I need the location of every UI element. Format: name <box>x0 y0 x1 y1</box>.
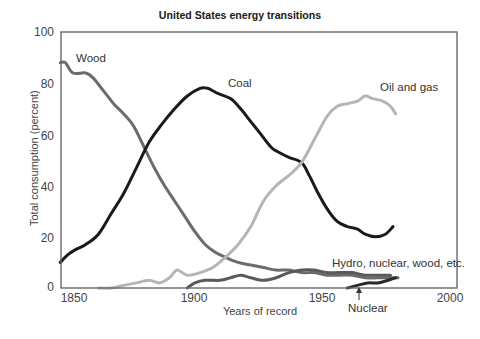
label-oil-and-gas: Oil and gas <box>380 81 438 93</box>
y-tick-0: 0 <box>24 280 54 294</box>
label-coal: Coal <box>228 77 252 89</box>
series-coal <box>60 88 393 263</box>
line-chart <box>0 0 480 339</box>
label-nuclear: Nuclear <box>348 302 388 314</box>
y-tick-100: 100 <box>24 25 54 39</box>
nuclear-arrow <box>356 287 362 300</box>
plot-frame <box>61 32 457 288</box>
y-tick-20: 20 <box>24 231 54 245</box>
series-wood <box>60 62 398 278</box>
series-layer <box>60 62 398 288</box>
y-axis-label: Total consumption (percent) <box>28 106 40 226</box>
label-hydro-nuclear-wood: Hydro, nuclear, wood, etc. <box>332 257 465 269</box>
x-axis-label: Years of record <box>200 305 320 317</box>
x-tick-1850: 1850 <box>54 291 94 305</box>
x-tick-1950: 1950 <box>302 291 342 305</box>
label-wood: Wood <box>76 52 106 64</box>
x-tick-1900: 1900 <box>174 291 214 305</box>
y-tick-80: 80 <box>24 77 54 91</box>
x-tick-2000: 2000 <box>430 291 470 305</box>
